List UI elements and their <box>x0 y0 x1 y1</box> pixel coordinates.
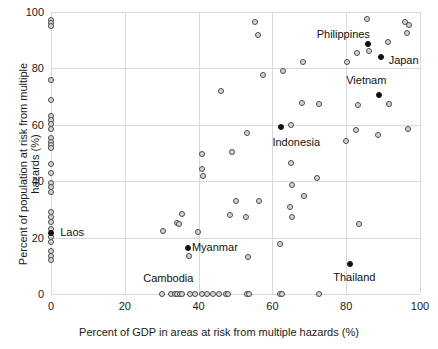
data-point <box>406 22 412 28</box>
data-point <box>386 101 392 107</box>
x-tick-label-0: 0 <box>48 300 54 312</box>
data-point <box>160 228 166 234</box>
data-point <box>48 189 54 195</box>
data-point <box>277 241 283 247</box>
data-point <box>404 30 410 36</box>
data-point <box>48 126 54 132</box>
data-point <box>288 160 294 166</box>
data-point <box>204 291 210 297</box>
y-axis-title: Percent of population at risk from multi… <box>17 49 41 279</box>
gridline-horizontal-100 <box>51 12 420 13</box>
y-tick-label-100: 100 <box>8 6 44 18</box>
annotation-label-laos: Laos <box>60 226 84 238</box>
data-point <box>48 170 54 176</box>
gridline-vertical-80 <box>346 12 347 294</box>
data-point <box>288 122 294 128</box>
data-point <box>179 291 185 297</box>
data-point <box>364 16 370 22</box>
data-point <box>289 214 295 220</box>
x-tick-label-20: 20 <box>119 300 131 312</box>
x-tick-label-100: 100 <box>411 300 429 312</box>
y-tick-label-0: 0 <box>8 288 44 300</box>
data-point <box>314 175 320 181</box>
x-axis-title: Percent of GDP in areas at risk from mul… <box>0 326 438 338</box>
data-point <box>48 145 54 151</box>
data-point <box>48 219 54 225</box>
data-point <box>48 239 54 245</box>
data-point <box>48 77 54 83</box>
data-point <box>225 291 231 297</box>
data-point <box>186 253 192 259</box>
data-point <box>245 254 251 260</box>
gridline-vertical-100 <box>420 12 421 294</box>
data-point <box>199 166 205 172</box>
data-point <box>301 193 307 199</box>
data-point <box>344 59 350 65</box>
data-point <box>48 97 54 103</box>
data-point <box>227 212 233 218</box>
data-point-japan <box>378 54 384 60</box>
data-point-thailand <box>347 261 353 267</box>
gridline-horizontal-60 <box>51 125 420 126</box>
data-point-indonesia <box>278 124 284 130</box>
data-point <box>280 68 286 74</box>
gridline-vertical-20 <box>125 12 126 294</box>
data-point <box>366 48 372 54</box>
data-point <box>192 291 198 297</box>
data-point-philippines <box>365 41 371 47</box>
annotation-label-cambodia: Cambodia <box>143 272 193 284</box>
data-point <box>48 257 54 263</box>
annotation-label-thailand: Thailand <box>333 271 375 283</box>
scatter-plot-figure: PhilippinesJapanVietnamIndonesiaLaosMyan… <box>0 0 438 349</box>
annotation-label-vietnam: Vietnam <box>346 74 386 86</box>
data-point-vietnam <box>376 92 382 98</box>
plot-area: PhilippinesJapanVietnamIndonesiaLaosMyan… <box>51 12 420 294</box>
x-tick-label-80: 80 <box>340 300 352 312</box>
data-point <box>200 173 206 179</box>
data-point <box>48 23 54 29</box>
data-point <box>252 19 258 25</box>
data-point-myanmar <box>185 245 191 251</box>
gridline-horizontal-0 <box>51 294 420 295</box>
annotation-label-myanmar: Myanmar <box>192 241 238 253</box>
data-point <box>218 88 224 94</box>
gridline-horizontal-40 <box>51 181 420 182</box>
data-point <box>246 291 252 297</box>
data-point <box>356 221 362 227</box>
annotation-label-japan: Japan <box>389 54 419 66</box>
data-point <box>243 214 249 220</box>
data-point <box>375 132 381 138</box>
data-point <box>176 221 182 227</box>
data-point <box>244 130 250 136</box>
data-point <box>353 127 359 133</box>
data-point <box>287 204 293 210</box>
data-point <box>199 151 205 157</box>
data-point <box>229 149 235 155</box>
data-point <box>260 72 266 78</box>
data-point <box>343 138 349 144</box>
data-point <box>179 211 185 217</box>
annotation-label-philippines: Philippines <box>317 28 370 40</box>
annotation-label-indonesia: Indonesia <box>272 136 320 148</box>
gridline-horizontal-80 <box>51 68 420 69</box>
data-point <box>233 198 239 204</box>
data-point <box>255 32 261 38</box>
gridline-horizontal-20 <box>51 238 420 239</box>
data-point-laos <box>48 230 54 236</box>
data-point <box>279 291 285 297</box>
data-point <box>300 59 306 65</box>
data-point <box>48 161 54 167</box>
data-point <box>385 39 391 45</box>
x-tick-label-60: 60 <box>266 300 278 312</box>
data-point <box>355 102 361 108</box>
data-point <box>289 182 295 188</box>
data-point <box>216 291 222 297</box>
data-point <box>256 198 262 204</box>
data-point <box>354 50 360 56</box>
data-point <box>195 229 201 235</box>
data-point <box>210 291 216 297</box>
data-point <box>299 100 305 106</box>
data-point <box>405 126 411 132</box>
data-point <box>316 101 322 107</box>
data-point <box>316 291 322 297</box>
